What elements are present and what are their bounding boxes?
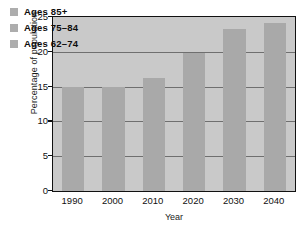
y-axis-tick-label: 0 [28,185,48,196]
legend-item-label: Ages 75–84 [24,22,78,33]
y-axis-tick-label: 15 [28,80,48,91]
bar-series [53,17,295,191]
x-axis-title: Year [52,212,296,222]
x-axis-tick-label: 2020 [183,195,204,206]
legend-item: Ages 85+ [10,5,78,18]
bar [62,87,85,191]
x-axis-tick-label: 2000 [102,195,123,206]
legend-item-label: Ages 85+ [24,6,68,17]
legend-swatch-icon [10,24,18,32]
legend: Ages 85+Ages 75–84Ages 62–74 [10,5,78,50]
bar [183,53,206,192]
y-axis-tick-label: 5 [28,150,48,161]
legend-item: Ages 75–84 [10,21,78,34]
y-axis-tick-label: 10 [28,115,48,126]
x-axis-tick-label: 2030 [223,195,244,206]
bar [143,78,166,191]
bar [264,23,287,191]
x-axis-tick-label: 1990 [62,195,83,206]
x-axis-tick-labels: 199020002010202020302040 [52,195,296,211]
bar-chart-figure: Percentage of population 0510152025 1990… [0,0,307,234]
legend-swatch-icon [10,8,18,16]
x-axis-tick-label: 2040 [263,195,284,206]
legend-swatch-icon [10,40,18,48]
legend-item-label: Ages 62–74 [24,38,78,49]
plot-area [52,16,296,192]
bar [102,87,125,191]
bar [223,29,246,191]
x-axis-tick-label: 2010 [142,195,163,206]
legend-item: Ages 62–74 [10,37,78,50]
